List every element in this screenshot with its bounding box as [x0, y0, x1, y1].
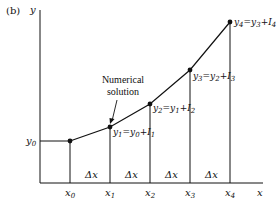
annotation-arrow-line: [112, 100, 117, 121]
point-y1: [108, 125, 113, 130]
x-tick-4: x4: [225, 188, 235, 200]
point-label-y4: y4=y3+I4: [234, 18, 276, 29]
interval-label-1: Δx: [85, 170, 98, 180]
point-y4: [228, 20, 233, 25]
x-tick-3: x3: [185, 188, 195, 200]
interval-label-4: Δx: [205, 170, 218, 180]
x-axis-label: x: [257, 188, 263, 198]
annotation-line-1: Numerical: [98, 74, 148, 86]
point-y3: [188, 68, 193, 73]
point-label-y3: y3=y2+I3: [193, 72, 235, 83]
x-tick-1: x1: [105, 188, 115, 200]
interval-label-3: Δx: [165, 170, 178, 180]
panel-label: (b): [6, 6, 20, 16]
point-y2: [148, 102, 153, 107]
y-axis-label: y: [30, 5, 36, 15]
interval-label-2: Δx: [125, 170, 138, 180]
point-label-y1: y1=y0+I1: [113, 128, 155, 139]
annotation-line-2: solution: [98, 86, 148, 98]
annotation-arrowhead: [110, 118, 115, 124]
point-y0: [68, 139, 73, 144]
numerical-solution-annotation: Numerical solution: [98, 74, 148, 98]
x-tick-0: x0: [65, 188, 75, 200]
diagram-canvas: [0, 0, 277, 205]
x-tick-2: x2: [145, 188, 155, 200]
point-label-y2: y2=y1+I2: [153, 104, 195, 115]
y0-label: y0: [26, 136, 36, 148]
